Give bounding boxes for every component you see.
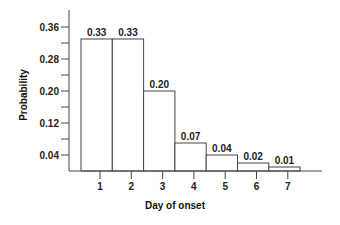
data-label-day-3: 0.20: [150, 79, 170, 90]
y-axis-title: Probability: [18, 69, 29, 121]
bar-day-7: [269, 167, 300, 171]
data-label-day-7: 0.01: [275, 155, 295, 166]
x-axis: 1234567: [69, 171, 322, 192]
x-axis-title: Day of onset: [145, 200, 206, 211]
x-tick-label: 3: [160, 181, 166, 192]
x-tick-label: 7: [285, 181, 291, 192]
bar-day-1: [81, 39, 112, 171]
bar-day-6: [238, 163, 269, 171]
y-tick-label: 0.36: [40, 22, 60, 33]
y-tick-label: 0.20: [40, 86, 60, 97]
x-tick-label: 1: [97, 181, 103, 192]
x-tick-label: 2: [129, 181, 135, 192]
y-axis: 0.040.120.200.280.36: [40, 10, 69, 171]
data-label-day-4: 0.07: [181, 131, 201, 142]
x-tick-label: 4: [191, 181, 197, 192]
bar-day-4: [175, 143, 206, 171]
data-label-day-2: 0.33: [118, 27, 138, 38]
bar-day-3: [144, 91, 175, 171]
y-tick-label: 0.12: [40, 118, 60, 129]
chart: 0.040.120.200.280.36 1234567 0.330.330.2…: [0, 0, 340, 225]
bars: [81, 39, 300, 171]
data-label-day-6: 0.02: [243, 151, 263, 162]
x-tick-label: 6: [254, 181, 260, 192]
bar-day-5: [206, 155, 237, 171]
bar-day-2: [112, 39, 143, 171]
x-tick-label: 5: [222, 181, 228, 192]
y-tick-label: 0.04: [40, 150, 60, 161]
data-label-day-5: 0.04: [212, 143, 232, 154]
y-tick-label: 0.28: [40, 54, 60, 65]
data-label-day-1: 0.33: [87, 27, 107, 38]
